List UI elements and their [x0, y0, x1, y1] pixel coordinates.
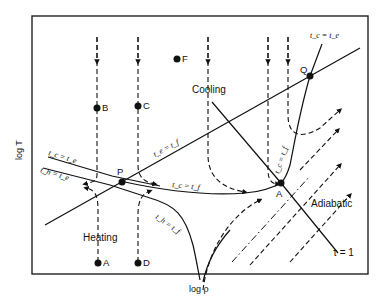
label-P: P [117, 166, 123, 177]
region-cooling: Cooling [192, 84, 226, 95]
label-tau-1: τ = 1 [333, 247, 354, 258]
label-C: C [143, 100, 150, 111]
label-B: B [102, 102, 108, 113]
point-B [94, 105, 101, 112]
region-heating: Heating [83, 232, 117, 243]
adiabat-3 [300, 130, 338, 170]
region-adiabatic: Adiabatic [311, 198, 352, 209]
label-D: D [143, 257, 150, 268]
adiabat-dashdot-1 [232, 176, 310, 262]
traj-cooling-right2 [288, 37, 340, 134]
label-tc-tf-right: t_c = t_f [272, 144, 290, 175]
label-A: A [103, 257, 110, 268]
diagram-figure: B C F A D P Q A Cooling Heating Adiabati… [0, 0, 384, 301]
point-A [95, 260, 102, 267]
label-A-equilibrium: A [276, 188, 283, 199]
curve-tau-1 [212, 102, 338, 253]
traj-D [138, 191, 150, 262]
label-te-tf: t_e = t_f [152, 137, 182, 159]
label-th-te: t_h = t_e [39, 165, 70, 182]
point-D [135, 260, 142, 267]
label-th-tf: t_h = t_f [154, 212, 184, 236]
point-A-equilibrium [278, 180, 285, 187]
label-tc-te-left: t_c = t_e [47, 148, 78, 165]
adiabat-1 [250, 165, 340, 265]
x-axis-label: log ρ [189, 284, 209, 294]
point-Q [307, 73, 314, 80]
label-tc-te-top: t_c = t_e [310, 31, 339, 40]
label-Q: Q [300, 64, 307, 75]
point-P [119, 179, 126, 186]
point-F [174, 56, 181, 63]
traj-cooling-mid [208, 37, 245, 192]
point-C [135, 103, 142, 110]
label-F: F [182, 53, 188, 64]
y-axis-label: log T [14, 140, 24, 160]
traj-heating-mid [203, 200, 260, 290]
